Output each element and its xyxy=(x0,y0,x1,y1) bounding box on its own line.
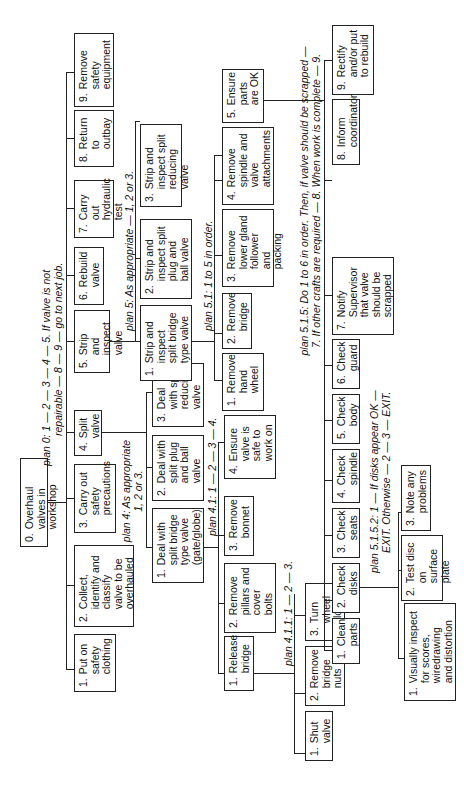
task-4-1-3-remove-bonnet: 3. Remove bonnet xyxy=(224,496,254,556)
connector xyxy=(254,673,294,674)
task-5-1-5-7-notify-supervisor: 7. Notify Supervisor that valve should b… xyxy=(332,257,394,335)
connector xyxy=(214,333,222,334)
task-number: 5. xyxy=(226,109,261,118)
task-5-1-5-4-check-spindle: 4. Check spindle xyxy=(332,449,360,503)
connector xyxy=(66,669,74,670)
plan-5-1: plan 5.1: 1 to 5 in order. xyxy=(202,220,214,331)
task-number: 6. xyxy=(336,375,357,384)
task-label: Check guard xyxy=(336,341,357,371)
task-5-1-5-8-inform-coordinator: 8. Inform coordinator xyxy=(332,99,360,165)
task-label: Split valve xyxy=(78,414,99,439)
task-label: Inform coordinator xyxy=(336,95,357,148)
connector xyxy=(324,650,332,651)
task-label: Notify Supervisor that valve should be s… xyxy=(336,261,391,317)
task-number: 3. xyxy=(144,193,179,202)
task-number: 1. xyxy=(144,367,189,376)
task-6-rebuild-valve: 6. Rebuild valve xyxy=(74,247,104,305)
task-number: 5. xyxy=(78,359,107,368)
connector xyxy=(66,341,74,342)
task-number: 2. xyxy=(336,599,357,608)
task-5-1-5-3-check-seats: 3. Check seats xyxy=(332,508,360,558)
connector xyxy=(324,365,332,366)
task-number: 4. xyxy=(228,465,273,474)
task-number: 1. xyxy=(226,397,261,406)
task-label: Release bridge xyxy=(228,635,251,674)
task-4-1-4-ensure-valve-safe: 4. Ensure valve is safe to work on xyxy=(224,415,276,479)
task-5-1-5-2-check-disks: 2. Check disks xyxy=(332,563,360,613)
task-number: 4. xyxy=(336,489,357,498)
connector xyxy=(204,547,218,548)
connector xyxy=(214,380,222,381)
connector xyxy=(324,180,332,181)
task-number: 3. xyxy=(336,544,357,553)
task-label: Carry out safety precautions xyxy=(78,461,113,515)
task-label: Remove lower gland follower and packing xyxy=(226,213,271,269)
task-label: Remove bridge xyxy=(226,292,249,331)
connector xyxy=(66,585,74,586)
task-1-put-on-safety-clothing: 1. Put on safety clothing xyxy=(74,634,116,692)
task-5-1-5-9-rectify-rebuild: 9. Rectify and/or put to rebuild xyxy=(332,25,374,95)
connector xyxy=(324,420,332,421)
task-number: 2. xyxy=(228,619,273,628)
task-number: 2. xyxy=(144,285,189,294)
task-5-1-5-1-clean-parts: 1. Clean parts xyxy=(332,618,360,664)
connector xyxy=(146,393,147,548)
task-label: Remove pillars and cover bolts xyxy=(228,567,273,615)
connector xyxy=(324,101,325,651)
task-label: Rectify and/or put to rebuild xyxy=(336,29,371,77)
task-label: Remove safety equipment xyxy=(78,37,111,89)
task-number: 1. xyxy=(309,747,330,756)
task-label: Ensure valve is safe to work on xyxy=(228,419,273,461)
task-5-1-5-6-check-guard: 6. Check guard xyxy=(332,339,360,389)
connector xyxy=(66,73,67,670)
task-number: 7. xyxy=(78,224,111,233)
task-label: Check disks xyxy=(336,565,357,595)
connector xyxy=(66,72,74,73)
task-number: 6. xyxy=(78,291,101,300)
task-label: Carry out hydraulic test xyxy=(78,178,111,220)
connector xyxy=(66,498,74,499)
task-label: Shut valve xyxy=(309,715,330,743)
task-5-3-strip-inspect-reducing-valve: 3. Strip and inspect split reducing valv… xyxy=(140,124,182,207)
connector xyxy=(66,208,74,209)
task-number: 4. xyxy=(78,442,99,451)
connector xyxy=(294,594,295,754)
task-label: Deal with split bridge type valve (gate/… xyxy=(156,509,201,565)
connector xyxy=(192,341,214,342)
task-label: Remove hand wheel xyxy=(226,354,261,393)
task-number: 1. xyxy=(228,677,251,686)
task-label: Return to outbay xyxy=(78,114,111,149)
plan-0: plan 0: 1 — 2 — 3 — 4 — 5. If valve is n… xyxy=(40,263,64,466)
connector xyxy=(66,432,74,433)
task-number: 7. xyxy=(336,321,391,330)
task-5-1-5-5-check-body: 5. Check body xyxy=(332,394,360,444)
connector xyxy=(48,502,66,503)
task-label: Check spindle xyxy=(336,452,357,485)
plan-5-1-5: plan 5.1.5: Do 1 to 6 in order. Then, if… xyxy=(298,21,322,381)
connector xyxy=(324,600,332,601)
task-5-1-1-remove-hand-wheel: 1. Remove hand wheel xyxy=(222,353,264,411)
task-number: 0. xyxy=(24,533,45,542)
plan-4-1: plan 4.1: 1 — 2 — 3 — 4. xyxy=(206,418,218,536)
task-label: Visually inspect for scores, wiredrawing… xyxy=(408,607,453,683)
task-label: Put on safety clothing xyxy=(78,638,113,674)
task-5-1-5-2-1-visually-inspect: 1. Visually inspect for scores, wiredraw… xyxy=(404,603,456,701)
task-5-1-5-2-2-test-disc: 2. Test disc on surface plate xyxy=(401,535,443,601)
task-number: 9. xyxy=(336,81,371,90)
connector xyxy=(214,156,215,381)
task-number: 2. xyxy=(78,613,131,622)
task-number: 3. xyxy=(156,413,201,422)
plan-5: plan 5: As appropriate — 1, 2 or 3. xyxy=(123,171,135,331)
task-number: 9. xyxy=(78,93,111,102)
task-label: Ensure parts are OK xyxy=(226,72,261,105)
connector xyxy=(324,61,325,101)
task-number: 5. xyxy=(336,430,357,439)
task-4-1-2-remove-pillars-cover-bolts: 2. Remove pillars and cover bolts xyxy=(224,563,276,633)
connector xyxy=(66,275,74,276)
task-label: Overhaul valves in workshop xyxy=(24,462,45,529)
task-label: Note any problems xyxy=(405,469,428,513)
task-number: 1. xyxy=(156,569,201,578)
task-number: 2. xyxy=(156,487,201,496)
connector xyxy=(324,535,332,536)
connector xyxy=(214,180,222,181)
